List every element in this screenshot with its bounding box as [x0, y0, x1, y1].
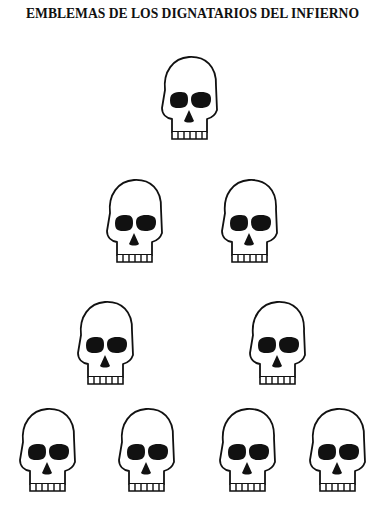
skull-icon: [13, 404, 81, 496]
page-title: EMBLEMAS DE LOS DIGNATARIOS DEL INFIERNO: [0, 6, 385, 22]
skull-icon: [303, 404, 371, 496]
skull-icon: [112, 404, 180, 496]
skull-icon: [243, 297, 311, 389]
skull-icon: [213, 404, 281, 496]
skull-icon: [215, 175, 283, 267]
skull-icon: [155, 52, 223, 144]
skull-icon: [71, 297, 139, 389]
skull-icon: [100, 175, 168, 267]
